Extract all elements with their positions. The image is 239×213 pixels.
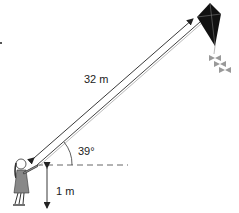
hand-height-label: 1 m: [56, 186, 74, 197]
kite-tail-icon: [209, 55, 231, 73]
kite-string: [37, 22, 202, 166]
stray-mark: [0, 42, 2, 44]
kite-icon: [197, 3, 221, 54]
angle-arc: [64, 142, 72, 165]
kite-diagram: [0, 0, 239, 213]
length-arrow: [34, 19, 193, 158]
angle-label: 39°: [78, 146, 95, 157]
girl-icon: [13, 159, 37, 205]
string-length-label: 32 m: [84, 74, 108, 85]
